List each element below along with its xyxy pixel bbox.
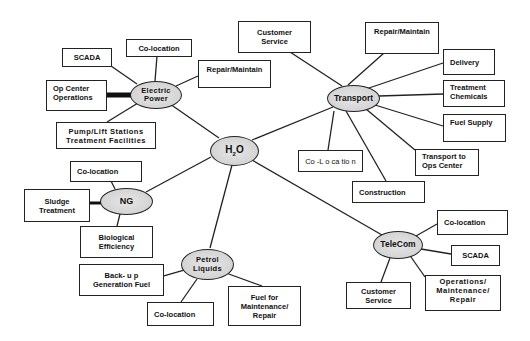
link-t-customer xyxy=(290,52,342,86)
link-ep-pump xyxy=(107,103,138,122)
link-t-chem xyxy=(379,94,443,96)
link-t-delivery xyxy=(366,63,443,89)
link-p-fuel xyxy=(226,273,262,286)
node-label: SCADA xyxy=(462,251,489,260)
node-label: Delivery xyxy=(450,58,479,67)
link-tc-customer xyxy=(381,258,390,282)
hub-label: Electric Power xyxy=(141,87,171,104)
node-label: Back- u p Generation Fuel xyxy=(93,271,150,289)
link-t-repair xyxy=(348,53,384,85)
node-label: Co -L o ca tio n xyxy=(305,157,356,166)
node-label: Repair/Maintain xyxy=(374,27,430,36)
node-t-repair-maintain: Repair/Maintain xyxy=(365,22,439,54)
node-p-fuel-maintenance-repair: Fuel for Maintenance/ Repair xyxy=(228,286,301,326)
node-label: Customer Service xyxy=(361,287,396,305)
hub-label: TeleCom xyxy=(380,240,415,249)
node-p-backup-generation-fuel: Back- u p Generation Fuel xyxy=(79,264,164,296)
hub-transport: Transport xyxy=(327,85,380,112)
node-t-delivery: Delivery xyxy=(443,49,495,75)
node-label: Op Center Operations xyxy=(53,84,93,102)
node-label: Construction xyxy=(359,188,406,197)
link-ng-bio xyxy=(117,214,120,226)
h2o-label: H2O xyxy=(225,144,243,158)
node-label: Co-location xyxy=(154,310,195,319)
node-ep-colocation: Co-location xyxy=(126,39,192,57)
node-ng-biological-efficiency: Biological Efficiency xyxy=(80,226,153,258)
infrastructure-diagram: SCADA Co-location Repair/Maintain Op Cen… xyxy=(0,0,530,341)
node-t-treatment-chemicals: Treatment Chemicals xyxy=(443,80,505,107)
node-label: Sludge Treatment xyxy=(39,197,75,215)
link-ep-repair xyxy=(176,76,198,86)
node-ep-repair-maintain: Repair/Maintain xyxy=(198,60,271,88)
link-ep-h2o xyxy=(170,104,219,138)
node-ep-op-center-operations: Op Center Operations xyxy=(46,80,107,111)
node-label: Biological Efficiency xyxy=(99,233,135,251)
node-tc-colocation: Co-location xyxy=(437,210,508,235)
node-label: Fuel Supply xyxy=(450,118,493,127)
node-tc-operations-maintenance-repair: Operations/ Maintenance/ Repair xyxy=(425,275,501,311)
link-tc-colocation xyxy=(416,224,437,236)
link-ng-colocation xyxy=(111,181,115,189)
node-label: Pump/Lift Stations Treatment Facilities xyxy=(66,127,146,145)
link-t-fuel xyxy=(375,105,443,126)
link-p-colocation xyxy=(181,279,197,302)
node-t-transport-to-ops: Transport to Ops Center xyxy=(415,149,479,176)
node-label: SCADA xyxy=(74,53,101,62)
link-tc-scada xyxy=(421,249,451,254)
node-ep-pump-lift-treatment: Pump/Lift Stations Treatment Facilities xyxy=(56,122,156,149)
node-t-colocation: Co -L o ca tio n xyxy=(298,150,363,172)
node-label: Transport to Ops Center xyxy=(422,152,466,170)
hub-label: NG xyxy=(120,197,134,207)
node-p-colocation: Co-location xyxy=(147,302,214,326)
node-t-customer-service: Customer Service xyxy=(238,21,311,53)
hub-label: Petrol Liquids xyxy=(193,256,222,273)
h2o-label-h: H xyxy=(225,144,232,155)
link-ep-colocation xyxy=(155,56,157,81)
node-label: Operations/ Maintenance/ Repair xyxy=(436,277,490,304)
hub-label: Transport xyxy=(334,94,373,103)
node-label: Repair/Maintain xyxy=(207,65,263,74)
link-h2o-transport xyxy=(252,107,333,140)
node-label: Treatment Chemicals xyxy=(450,83,488,101)
node-label: Co-location xyxy=(77,167,118,176)
node-ng-sludge-treatment: Sludge Treatment xyxy=(24,189,90,222)
link-h2o-petrol xyxy=(210,165,232,248)
node-t-fuel-supply: Fuel Supply xyxy=(443,114,506,142)
link-p-backup xyxy=(163,270,184,276)
hub-ng: NG xyxy=(100,188,153,215)
node-ng-colocation: Co-location xyxy=(70,161,142,182)
node-ep-scada: SCADA xyxy=(62,48,112,67)
node-label: Co-location xyxy=(444,218,485,227)
hub-telecom: TeleCom xyxy=(373,231,423,259)
node-tc-scada: SCADA xyxy=(451,245,500,266)
hub-h2o-center: H2O xyxy=(210,136,259,166)
link-ep-scada xyxy=(111,66,137,84)
node-label: Customer Service xyxy=(257,28,292,46)
hub-petrol-liquids: Petrol Liquids xyxy=(181,249,234,280)
link-h2o-ng xyxy=(146,157,211,192)
link-tc-ops xyxy=(411,257,425,277)
hub-electric-power: Electric Power xyxy=(130,81,182,109)
node-tc-customer-service: Customer Service xyxy=(346,282,411,309)
h2o-label-o: O xyxy=(236,144,244,155)
node-label: Co-location xyxy=(138,44,179,53)
node-t-construction: Construction xyxy=(352,181,425,203)
node-label: Fuel for Maintenance/ Repair xyxy=(241,293,289,320)
link-t-colocation xyxy=(328,111,334,150)
